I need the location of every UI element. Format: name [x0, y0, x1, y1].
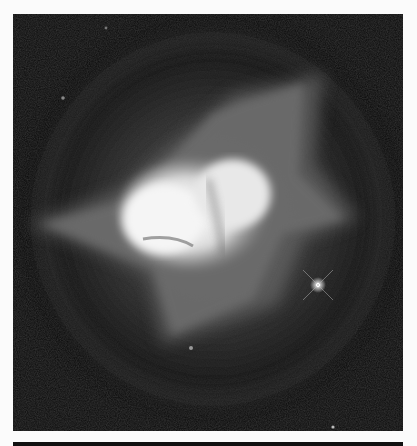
nebula-photo	[13, 14, 403, 431]
bottom-bar	[13, 442, 403, 446]
nebula-illustration	[13, 14, 403, 431]
